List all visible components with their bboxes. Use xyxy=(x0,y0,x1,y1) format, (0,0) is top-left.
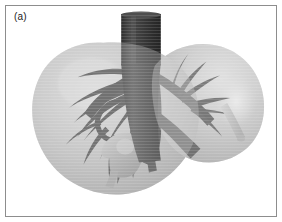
cava-top-rim xyxy=(121,12,161,19)
panel-label: (a) xyxy=(14,11,27,23)
figure-frame: (a) xyxy=(5,5,277,217)
liver-3d-rendering xyxy=(6,6,276,216)
figure-root: (a) xyxy=(0,0,282,222)
liver-render-stage xyxy=(6,6,276,216)
